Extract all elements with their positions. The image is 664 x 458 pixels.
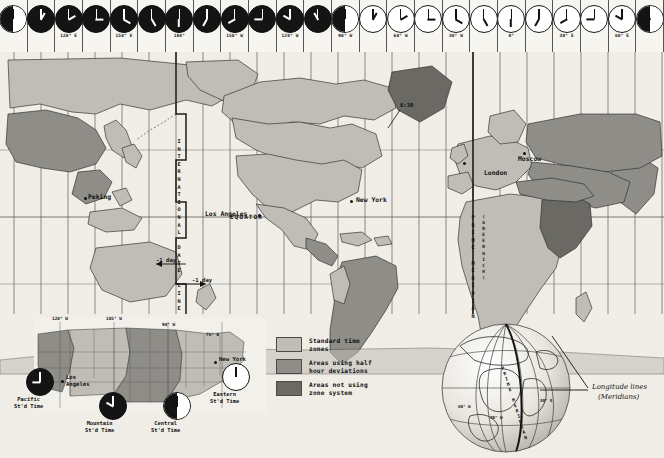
us-lon-label-105w: 105° W bbox=[106, 316, 122, 321]
clock-face-19 bbox=[525, 5, 553, 33]
clock-cell-16: 30° W bbox=[443, 0, 471, 52]
clock-face-23 bbox=[636, 5, 664, 33]
clock-cell-0 bbox=[0, 0, 28, 52]
legend-swatch-standard bbox=[276, 337, 302, 352]
clock-lon-label-2: 120° E bbox=[60, 33, 77, 38]
clock-lon-label-4: 150° E bbox=[115, 33, 132, 38]
clock-face-11 bbox=[304, 5, 332, 33]
globe-lon-label-60w: 60° W bbox=[458, 404, 471, 409]
tz-label-central: Central St'd Time bbox=[151, 420, 180, 434]
us-city-label-los-angeles: Los Angeles bbox=[66, 374, 90, 387]
clock-face-17 bbox=[470, 5, 498, 33]
clock-cell-14: 60° W bbox=[387, 0, 415, 52]
clock-hour-hand-7 bbox=[202, 19, 207, 26]
clock-face-15 bbox=[414, 5, 442, 33]
globe-lon-label-30e: 30° E bbox=[540, 398, 553, 403]
us-city-dot-new-york bbox=[214, 361, 217, 364]
clock-strip: 120° E150° E180°150° W120° W90° W60° W30… bbox=[0, 0, 664, 53]
clock-face-14 bbox=[387, 5, 415, 33]
clock-cell-11 bbox=[304, 0, 332, 52]
clock-cell-15 bbox=[415, 0, 443, 52]
clock-cell-17 bbox=[470, 0, 498, 52]
clock-cell-19 bbox=[526, 0, 554, 52]
half-hour-zone-label: 6:30 bbox=[400, 102, 413, 108]
clock-minute-hand-11 bbox=[317, 9, 318, 20]
clock-face-1 bbox=[27, 5, 55, 33]
clock-face-7 bbox=[193, 5, 221, 33]
clock-cell-20: 30° E bbox=[553, 0, 581, 52]
clock-face-0 bbox=[0, 5, 27, 33]
clock-hour-hand-5 bbox=[151, 19, 156, 26]
clock-hour-hand-15 bbox=[428, 18, 436, 20]
clock-minute-hand-21 bbox=[594, 9, 595, 20]
clock-cell-13 bbox=[360, 0, 388, 52]
legend-item-none: Areas not using zone system bbox=[276, 381, 396, 398]
clock-face-4 bbox=[110, 5, 138, 33]
globe-lon-label-30w: 30° W bbox=[490, 415, 503, 420]
clock-minute-hand-10 bbox=[289, 9, 290, 20]
clock-hour-hand-4 bbox=[124, 18, 131, 23]
clock-face-13 bbox=[359, 5, 387, 33]
clock-minute-hand-20 bbox=[566, 9, 567, 20]
legend: Standard time zones Areas using half hou… bbox=[276, 337, 396, 402]
clock-minute-hand-16 bbox=[455, 9, 456, 20]
clock-cell-4: 150° E bbox=[111, 0, 139, 52]
city-label-peking: Peking bbox=[88, 193, 111, 201]
clock-hour-hand-20 bbox=[560, 18, 567, 23]
clock-face-22 bbox=[608, 5, 636, 33]
clock-cell-8: 150° W bbox=[221, 0, 249, 52]
clock-cell-23 bbox=[636, 0, 664, 52]
clock-cell-5 bbox=[138, 0, 166, 52]
clock-face-20 bbox=[553, 5, 581, 33]
clock-cell-6: 180° bbox=[166, 0, 194, 52]
clock-lon-label-16: 30° W bbox=[449, 33, 463, 38]
clock-minute-hand-0 bbox=[13, 9, 14, 20]
us-city-dot-los-angeles bbox=[61, 380, 64, 383]
clock-hour-hand-6 bbox=[178, 19, 180, 27]
legend-swatch-none bbox=[276, 381, 302, 396]
us-lon-label-90w: 90° W bbox=[162, 322, 175, 327]
minus-one-day-upper-label: -1 day bbox=[156, 257, 176, 263]
clock-hour-hand-16 bbox=[456, 18, 463, 23]
clock-face-2 bbox=[55, 5, 83, 33]
clock-lon-label-22: 60° E bbox=[615, 33, 629, 38]
globe-callout-label: Longitude lines bbox=[592, 382, 647, 392]
clock-minute-hand-17 bbox=[483, 9, 484, 20]
clock-minute-hand-4 bbox=[123, 9, 124, 20]
clock-lon-label-10: 120° W bbox=[281, 33, 298, 38]
clock-lon-label-12: 90° W bbox=[338, 33, 352, 38]
clock-lon-label-14: 60° W bbox=[394, 33, 408, 38]
clock-lon-label-18: 0° bbox=[508, 33, 514, 38]
us-lon-label-120w: 120° W bbox=[52, 316, 68, 321]
city-label-moscow: Moscow bbox=[518, 155, 541, 163]
clock-minute-hand-12 bbox=[345, 9, 346, 20]
clock-cell-21 bbox=[581, 0, 609, 52]
clock-face-12 bbox=[331, 5, 359, 33]
minus-one-day-lower-label: -1 day bbox=[192, 277, 212, 283]
clock-minute-hand-9 bbox=[262, 9, 263, 20]
clock-cell-7 bbox=[194, 0, 222, 52]
clock-minute-hand-23 bbox=[649, 9, 650, 20]
equator-label: EQUATOR bbox=[230, 213, 263, 220]
clock-face-9 bbox=[248, 5, 276, 33]
us-lon-label-75w: 75° W bbox=[206, 332, 219, 337]
tz-clock-minute-hand-0 bbox=[39, 372, 40, 383]
clock-lon-label-20: 30° E bbox=[560, 33, 574, 38]
clock-minute-hand-14 bbox=[400, 9, 401, 20]
tz-clock-minute-hand-1 bbox=[112, 396, 113, 407]
clock-face-18 bbox=[497, 5, 525, 33]
us-city-label-new-york: New York bbox=[219, 356, 246, 363]
clock-face-10 bbox=[276, 5, 304, 33]
clock-hour-hand-3 bbox=[96, 18, 104, 20]
tz-clock-minute-hand-2 bbox=[176, 396, 177, 407]
clock-minute-hand-22 bbox=[621, 9, 622, 20]
clock-cell-10: 120° W bbox=[277, 0, 305, 52]
clock-lon-label-6: 180° bbox=[174, 33, 185, 38]
clock-cell-3 bbox=[83, 0, 111, 52]
clock-hour-hand-8 bbox=[228, 18, 235, 23]
clock-minute-hand-7 bbox=[206, 9, 207, 20]
clock-minute-hand-2 bbox=[68, 9, 69, 20]
clock-cell-2: 120° E bbox=[55, 0, 83, 52]
clock-minute-hand-19 bbox=[538, 9, 539, 20]
legend-swatch-half bbox=[276, 359, 302, 374]
